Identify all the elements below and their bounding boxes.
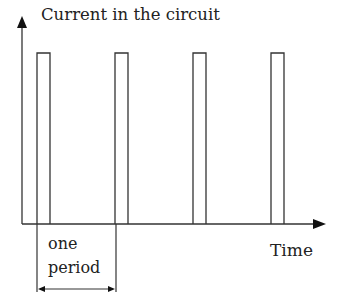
x-axis-arrow-icon [313, 219, 326, 229]
period-arrow-left-icon [38, 286, 45, 292]
current-pulse [37, 53, 50, 224]
pulse-current-diagram: Current in the circuit Time one period [0, 0, 338, 303]
period-label-line2: period [48, 258, 100, 277]
y-axis-label: Current in the circuit [41, 5, 220, 24]
period-label-line1: one [48, 234, 77, 253]
current-pulse [271, 53, 284, 224]
period-arrow-right-icon [108, 286, 115, 292]
y-axis-arrow-icon [17, 16, 27, 28]
current-pulse [193, 53, 206, 224]
x-axis-label: Time [270, 240, 313, 260]
pulse-train [37, 53, 284, 224]
current-pulse [115, 53, 128, 224]
